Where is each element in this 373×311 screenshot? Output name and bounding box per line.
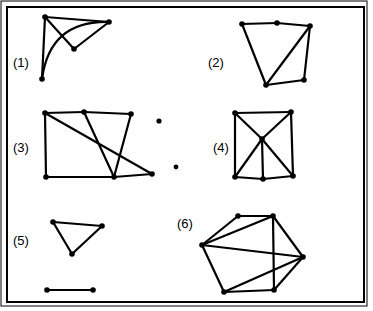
graph-node bbox=[260, 176, 266, 182]
graph-node bbox=[271, 287, 277, 293]
graph-node bbox=[42, 110, 48, 116]
stray-dot-1 bbox=[156, 118, 161, 123]
graph-node bbox=[50, 219, 56, 225]
graph-node bbox=[290, 173, 296, 179]
label-3: (3) bbox=[13, 140, 29, 155]
graph-node bbox=[128, 111, 134, 117]
graph-node bbox=[81, 109, 87, 115]
label-4: (4) bbox=[213, 140, 229, 155]
graph-node bbox=[90, 287, 96, 293]
graph-node bbox=[71, 46, 77, 52]
graph-node bbox=[221, 289, 227, 295]
graph-node bbox=[199, 242, 205, 248]
graph-node bbox=[235, 213, 241, 219]
graph-node bbox=[99, 223, 105, 229]
graph-node bbox=[106, 19, 112, 25]
graph-node bbox=[232, 174, 238, 180]
graph-node bbox=[232, 110, 238, 116]
label-6: (6) bbox=[177, 216, 193, 231]
graph-figure-panel: (1)(2)(3)(4)(5)(6) bbox=[0, 0, 373, 311]
graph-node bbox=[42, 14, 48, 20]
graph-node bbox=[44, 287, 50, 293]
graph-node bbox=[263, 82, 269, 88]
graph-node bbox=[270, 213, 276, 219]
graph-edge bbox=[45, 112, 84, 113]
label-2: (2) bbox=[208, 55, 224, 70]
graph-figure-svg: (1)(2)(3)(4)(5)(6) bbox=[0, 0, 373, 311]
label-1: (1) bbox=[13, 55, 29, 70]
graph-edge bbox=[242, 23, 277, 24]
graph-node bbox=[69, 251, 75, 257]
graph-node bbox=[301, 77, 307, 83]
graph-node bbox=[149, 171, 155, 177]
graph-node bbox=[259, 136, 265, 142]
graph-node bbox=[43, 174, 49, 180]
graph-edge bbox=[262, 139, 263, 179]
stray-dot-2 bbox=[174, 165, 179, 170]
graph-edge bbox=[235, 112, 291, 113]
graph-node bbox=[288, 109, 294, 115]
graph-node bbox=[39, 76, 45, 82]
graph-edge bbox=[45, 113, 46, 177]
graph-node bbox=[300, 254, 306, 260]
graph-node bbox=[307, 23, 313, 29]
figure-background bbox=[0, 0, 373, 311]
label-5: (5) bbox=[13, 233, 29, 248]
graph-node bbox=[111, 174, 117, 180]
graph-node bbox=[274, 20, 280, 26]
graph-node bbox=[239, 21, 245, 27]
